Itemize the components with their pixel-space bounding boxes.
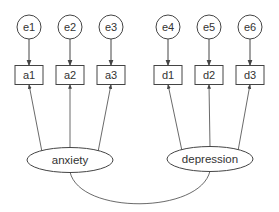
indicator-node-a1: a1 bbox=[15, 66, 43, 85]
error-label: e4 bbox=[162, 21, 174, 33]
latent-node-depression: depression bbox=[167, 147, 253, 172]
error-label: e2 bbox=[64, 21, 76, 33]
error-label: e5 bbox=[203, 21, 215, 33]
latent-label: depression bbox=[182, 153, 238, 165]
indicator-label: d3 bbox=[244, 69, 256, 81]
error-node-e5: e5 bbox=[197, 15, 221, 39]
indicator-label: d1 bbox=[162, 69, 174, 81]
covariance-curve bbox=[70, 171, 210, 204]
error-node-e4: e4 bbox=[156, 15, 180, 39]
error-label: e1 bbox=[23, 21, 35, 33]
latent-node-anxiety: anxiety bbox=[27, 148, 113, 173]
indicator-label: d2 bbox=[203, 69, 215, 81]
loading-path-d2 bbox=[209, 85, 210, 148]
loading-path-a3 bbox=[98, 85, 111, 153]
indicator-node-d2: d2 bbox=[195, 66, 223, 85]
indicator-node-d1: d1 bbox=[154, 66, 182, 85]
error-node-e1: e1 bbox=[17, 15, 41, 39]
latent-label: anxiety bbox=[52, 154, 89, 166]
error-node-e3: e3 bbox=[99, 15, 123, 39]
loading-path-a1 bbox=[29, 85, 42, 153]
loading-path-d3 bbox=[238, 85, 250, 152]
indicator-node-a3: a3 bbox=[97, 66, 125, 85]
error-label: e6 bbox=[244, 21, 256, 33]
loading-path-d1 bbox=[168, 85, 182, 152]
error-label: e3 bbox=[105, 21, 117, 33]
edges bbox=[29, 39, 250, 204]
indicator-node-a2: a2 bbox=[56, 66, 84, 85]
indicator-node-d3: d3 bbox=[236, 66, 264, 85]
nodes: e1e2e3e4e5e6a1a2a3d1d2d3anxietydepressio… bbox=[15, 15, 264, 173]
sem-diagram: e1e2e3e4e5e6a1a2a3d1d2d3anxietydepressio… bbox=[0, 0, 279, 212]
error-node-e6: e6 bbox=[238, 15, 262, 39]
indicator-label: a3 bbox=[105, 69, 117, 81]
error-node-e2: e2 bbox=[58, 15, 82, 39]
indicator-label: a1 bbox=[23, 69, 35, 81]
indicator-label: a2 bbox=[64, 69, 76, 81]
